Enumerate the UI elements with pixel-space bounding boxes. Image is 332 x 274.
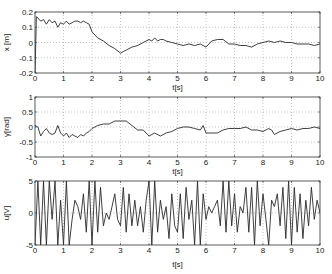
x-tick-label: 0	[33, 158, 38, 167]
x-axis-label: t[s]	[172, 167, 183, 176]
x-tick-label: 8	[261, 74, 266, 83]
y-axis-label: u[V]	[2, 206, 11, 220]
x-tick-label: 7	[232, 158, 237, 167]
x-tick-label: 6	[204, 246, 209, 255]
x-tick-label: 8	[261, 158, 266, 167]
x-tick-label: 6	[204, 158, 209, 167]
x-tick-label: 2	[90, 74, 95, 83]
y-tick-label: 1	[29, 93, 34, 102]
data-line	[35, 121, 320, 138]
x-tick-label: 7	[232, 74, 237, 83]
y-tick-label: 0	[29, 39, 34, 48]
x-tick-label: 2	[90, 158, 95, 167]
x-tick-label: 3	[118, 246, 123, 255]
y-tick-label: -5	[26, 241, 34, 250]
y-tick-label: -0.1	[19, 54, 33, 63]
y-tick-label: 0.2	[22, 8, 34, 17]
x-tick-label: 8	[261, 246, 266, 255]
x-tick-label: 4	[147, 246, 152, 255]
y-tick-label: 0	[29, 123, 34, 132]
x-tick-label: 5	[175, 246, 180, 255]
x-tick-label: 9	[289, 246, 294, 255]
x-axis-label: t[s]	[172, 83, 183, 92]
x-tick-label: 5	[175, 74, 180, 83]
x-axis-label: t[s]	[172, 260, 183, 269]
x-tick-label: 1	[61, 74, 66, 83]
x-tick-label: 5	[175, 158, 180, 167]
x-tick-label: 7	[232, 246, 237, 255]
x-tick-label: 4	[147, 74, 152, 83]
x-tick-label: 3	[118, 158, 123, 167]
x-tick-label: 1	[61, 246, 66, 255]
x-tick-label: 9	[289, 158, 294, 167]
x-tick-label: 9	[289, 74, 294, 83]
x-tick-label: 3	[118, 74, 123, 83]
x-tick-label: 6	[204, 74, 209, 83]
x-tick-label: 0	[33, 246, 38, 255]
x-tick-label: 0	[33, 74, 38, 83]
y-tick-label: 0.5	[22, 108, 34, 117]
y-tick-label: -0.2	[19, 69, 33, 78]
chart-canvas: 012345678910-0.2-0.100.10.2t[s]x [m]0123…	[0, 0, 332, 274]
x-tick-label: 10	[316, 74, 325, 83]
y-tick-label: 0.1	[22, 23, 34, 32]
x-tick-label: 10	[316, 246, 325, 255]
y-axis-label: x [m]	[2, 34, 11, 51]
y-tick-label: 5	[29, 177, 34, 186]
y-tick-label: -0.5	[19, 138, 33, 147]
y-axis-label: γ[rad]	[2, 117, 11, 137]
x-tick-label: 10	[316, 158, 325, 167]
x-tick-label: 1	[61, 158, 66, 167]
data-line	[35, 17, 320, 73]
subplot-1: 012345678910-0.2-0.100.10.2t[s]x [m]	[2, 8, 325, 92]
x-tick-label: 2	[90, 246, 95, 255]
y-tick-label: 0	[29, 209, 34, 218]
y-tick-label: -1	[26, 153, 34, 162]
subplot-3: 012345678910-505t[s]u[V]	[2, 177, 325, 269]
x-tick-label: 4	[147, 158, 152, 167]
subplot-2: 012345678910-1-0.500.51t[s]γ[rad]	[2, 93, 325, 176]
